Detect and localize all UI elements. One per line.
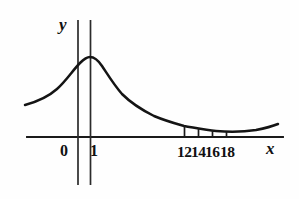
tick-label-12: 12 <box>177 143 192 160</box>
figure-container: y x 0 1 12 14 16 18 <box>0 0 299 199</box>
tick-label-16: 16 <box>205 143 220 160</box>
tick-label-1: 1 <box>90 142 98 159</box>
tick-label-18: 18 <box>220 143 235 160</box>
curve-plot: y x 0 1 12 14 16 18 <box>0 0 299 199</box>
distribution-curve <box>25 57 278 132</box>
x-axis-label: x <box>265 139 275 158</box>
y-axis-label: y <box>57 15 67 34</box>
tick-label-14: 14 <box>191 143 206 160</box>
tick-label-0: 0 <box>60 142 68 159</box>
